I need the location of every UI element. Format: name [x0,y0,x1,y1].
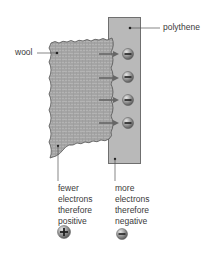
caption-line: fewer [58,183,93,194]
wool-pointer-dot [56,52,59,55]
negative-charge-icon [123,72,134,83]
negative-charge-icon [117,229,128,240]
positive-charge-icon [58,226,71,239]
caption-line: electrons [115,194,150,205]
negative-charge-icon [123,95,134,106]
wool-label: wool [15,47,32,58]
wool-caption: fewer electrons therefore positive [58,183,93,227]
caption-line: electrons [58,194,93,205]
caption-line: negative [115,216,150,227]
caption-line: more [115,183,150,194]
caption-line: therefore [58,205,93,216]
negative-charge-icon [123,49,134,60]
polythene-caption: more electrons therefore negative [115,183,150,227]
wool-cloth [49,38,113,158]
negative-charge-icon [123,118,134,129]
polythene-label: polythene [163,22,200,33]
polythene-pointer-dot [129,27,132,30]
diagram-canvas [0,0,218,254]
caption-line: positive [58,216,93,227]
caption-line: therefore [115,205,150,216]
